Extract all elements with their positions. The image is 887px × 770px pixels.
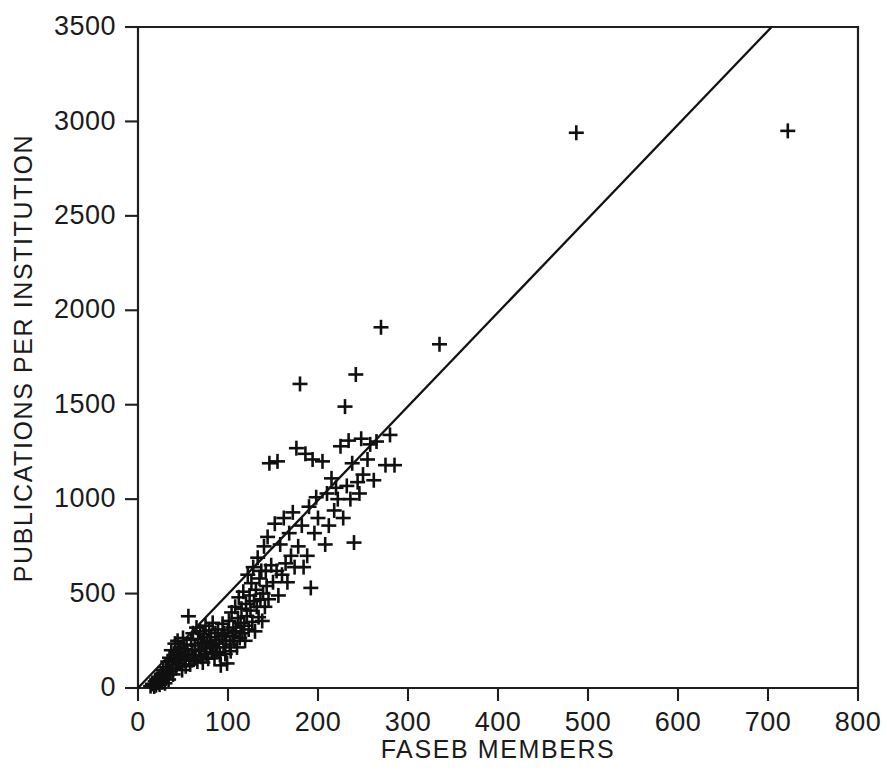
plot-frame bbox=[138, 27, 858, 688]
x-tick-label: 700 bbox=[745, 707, 792, 737]
data-point-marker bbox=[307, 526, 322, 541]
data-point-marker bbox=[260, 529, 275, 544]
data-point-marker bbox=[296, 560, 311, 575]
data-point-marker bbox=[318, 537, 333, 552]
y-tick-label: 0 bbox=[100, 672, 116, 702]
data-point-marker bbox=[302, 499, 317, 514]
data-point-marker bbox=[293, 376, 308, 391]
x-tick-label: 800 bbox=[835, 707, 882, 737]
y-tick-label: 1500 bbox=[54, 389, 116, 419]
x-tick-label: 600 bbox=[655, 707, 702, 737]
data-point-marker bbox=[303, 580, 318, 595]
scatter-plot: 0500100015002000250030003500 01002003004… bbox=[0, 0, 887, 770]
y-tick-label: 2500 bbox=[54, 200, 116, 230]
data-point-marker bbox=[294, 518, 309, 533]
x-axis-ticks: 0100200300400500600700800 bbox=[130, 688, 881, 737]
data-point-marker bbox=[432, 337, 447, 352]
y-axis-ticks: 0500100015002000250030003500 bbox=[54, 11, 138, 702]
data-point-marker bbox=[271, 588, 286, 603]
y-tick-label: 3500 bbox=[54, 11, 116, 41]
y-tick-label: 3000 bbox=[54, 106, 116, 136]
regression-line bbox=[138, 27, 772, 688]
data-point-marker bbox=[315, 454, 330, 469]
x-tick-label: 300 bbox=[385, 707, 432, 737]
data-point-marker bbox=[374, 320, 389, 335]
data-point-marker bbox=[780, 123, 795, 138]
data-point-marker bbox=[569, 125, 584, 140]
data-point-marker bbox=[387, 458, 402, 473]
data-point-marker bbox=[338, 399, 353, 414]
data-point-marker bbox=[255, 613, 270, 628]
figure-container: 0500100015002000250030003500 01002003004… bbox=[0, 0, 887, 770]
data-point-marker bbox=[327, 503, 342, 518]
y-tick-label: 1000 bbox=[54, 483, 116, 513]
axis-frame-path bbox=[138, 27, 858, 688]
data-point-group bbox=[143, 123, 795, 694]
y-tick-label: 2000 bbox=[54, 294, 116, 324]
data-point-marker bbox=[181, 609, 196, 624]
y-tick-label: 500 bbox=[69, 578, 116, 608]
data-point-marker bbox=[300, 548, 315, 563]
x-tick-label: 100 bbox=[205, 707, 252, 737]
data-point-marker bbox=[339, 478, 354, 493]
data-point-marker bbox=[270, 454, 285, 469]
data-point-marker bbox=[347, 535, 362, 550]
x-tick-label: 400 bbox=[475, 707, 522, 737]
x-axis-title: FASEB MEMBERS bbox=[381, 735, 616, 763]
data-point-marker bbox=[336, 511, 351, 526]
x-tick-label: 0 bbox=[130, 707, 146, 737]
x-tick-label: 500 bbox=[565, 707, 612, 737]
data-point-marker bbox=[311, 511, 326, 526]
data-point-marker bbox=[262, 456, 277, 471]
data-point-marker bbox=[348, 367, 363, 382]
data-point-marker bbox=[291, 539, 306, 554]
y-axis-title: PUBLICATIONS PER INSTITUTION bbox=[9, 134, 37, 583]
data-point-marker bbox=[321, 518, 336, 533]
data-point-marker bbox=[282, 526, 297, 541]
x-tick-label: 200 bbox=[295, 707, 342, 737]
